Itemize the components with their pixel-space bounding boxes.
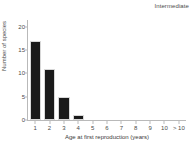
chart-figure: Intermediate Number of species 05101520 …: [0, 0, 193, 148]
y-tick-mark: [25, 96, 28, 97]
y-tick-mark: [25, 73, 28, 74]
x-tick-mark: [63, 121, 64, 124]
x-tick-mark: [135, 121, 136, 124]
x-tick-mark: [107, 121, 108, 124]
x-tick-label: 7: [120, 125, 123, 131]
x-tick-mark: [121, 121, 122, 124]
x-tick-mark: [35, 121, 36, 124]
y-axis-title: Number of species: [1, 21, 7, 71]
bar: [44, 69, 55, 120]
x-tick-label: 3: [62, 125, 65, 131]
y-tick-mark: [25, 50, 28, 51]
x-tick-label: 10: [161, 125, 168, 131]
x-tick-mark: [150, 121, 151, 124]
chart-title: Intermediate: [154, 3, 189, 9]
y-tick-label: 20: [18, 24, 25, 30]
x-axis-title: Age at first reproduction (years): [28, 134, 186, 140]
y-tick-label: 10: [18, 70, 25, 76]
bar: [30, 41, 41, 120]
y-tick-label: 15: [18, 47, 25, 53]
x-axis-ticks: 12345678910> 10: [28, 121, 186, 133]
x-tick-mark: [78, 121, 79, 124]
x-tick-mark: [92, 121, 93, 124]
x-tick-label: 8: [134, 125, 137, 131]
bar: [73, 115, 84, 120]
plot-area: 05101520: [28, 22, 186, 120]
x-tick-label: 2: [48, 125, 51, 131]
x-tick-label: 9: [148, 125, 151, 131]
x-tick-label: 4: [77, 125, 80, 131]
x-tick-label: > 10: [173, 125, 185, 131]
x-tick-mark: [164, 121, 165, 124]
x-tick-label: 6: [105, 125, 108, 131]
x-tick-mark: [49, 121, 50, 124]
x-tick-label: 5: [91, 125, 94, 131]
bar: [58, 97, 69, 120]
y-tick-mark: [25, 26, 28, 27]
x-tick-label: 1: [34, 125, 37, 131]
x-tick-mark: [178, 121, 179, 124]
